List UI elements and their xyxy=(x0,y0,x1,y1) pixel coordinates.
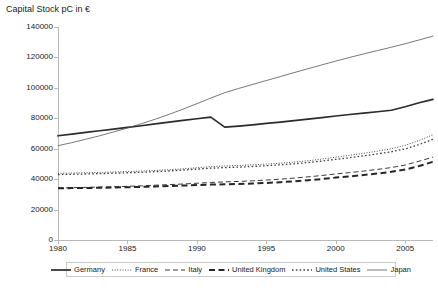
y-tick-mark xyxy=(54,27,58,28)
x-axis-line xyxy=(58,240,433,241)
cropped-caption xyxy=(4,281,204,288)
chart-container: Capital Stock pC in € 020000400006000080… xyxy=(0,0,438,288)
series-line xyxy=(58,157,433,188)
legend-swatch-icon xyxy=(112,266,132,274)
legend-label: Germany xyxy=(74,266,105,274)
legend-item[interactable]: Germany xyxy=(51,266,105,274)
y-tick-label: 0 xyxy=(49,236,53,244)
y-tick-label: 60000 xyxy=(31,145,53,153)
x-tick-label: 1995 xyxy=(257,244,275,254)
series-line xyxy=(58,139,433,174)
chart-legend: GermanyFranceItalyUnited KingdomUnited S… xyxy=(66,262,396,277)
legend-swatch-icon xyxy=(209,266,229,274)
legend-label: United States xyxy=(315,266,360,274)
y-tick-label: 140000 xyxy=(26,23,53,31)
y-tick-label: 120000 xyxy=(26,53,53,61)
series-line xyxy=(58,162,433,188)
y-tick-label: 80000 xyxy=(31,114,53,122)
legend-item[interactable]: United States xyxy=(292,266,360,274)
legend-swatch-icon xyxy=(367,266,387,274)
legend-swatch-icon xyxy=(165,266,185,274)
legend-item[interactable]: Italy xyxy=(165,266,202,274)
x-tick-label: 1985 xyxy=(119,244,137,254)
x-tick-mark xyxy=(127,240,128,244)
legend-swatch-icon xyxy=(292,266,312,274)
y-tick-mark xyxy=(54,118,58,119)
legend-label: Japan xyxy=(390,266,410,274)
legend-label: France xyxy=(135,266,158,274)
x-axis-labels: 198019851990199520002005 xyxy=(0,244,438,258)
series-line xyxy=(58,99,433,135)
legend-item[interactable]: France xyxy=(112,266,158,274)
x-tick-mark xyxy=(197,240,198,244)
x-tick-mark xyxy=(405,240,406,244)
y-tick-mark xyxy=(54,210,58,211)
y-tick-mark xyxy=(54,88,58,89)
plot-area xyxy=(58,27,433,240)
legend-label: Italy xyxy=(188,266,202,274)
y-tick-mark xyxy=(54,57,58,58)
x-tick-label: 1990 xyxy=(188,244,206,254)
x-tick-mark xyxy=(58,240,59,244)
x-tick-label: 2000 xyxy=(327,244,345,254)
y-tick-label: 20000 xyxy=(31,206,53,214)
y-tick-label: 40000 xyxy=(31,175,53,183)
legend-swatch-icon xyxy=(51,266,71,274)
y-tick-mark xyxy=(54,179,58,180)
y-tick-mark xyxy=(54,149,58,150)
legend-label: United Kingdom xyxy=(232,266,285,274)
y-tick-label: 100000 xyxy=(26,84,53,92)
legend-item[interactable]: United Kingdom xyxy=(209,266,285,274)
x-tick-label: 1980 xyxy=(49,244,67,254)
series-lines xyxy=(58,27,433,240)
x-tick-label: 2005 xyxy=(396,244,414,254)
x-tick-mark xyxy=(266,240,267,244)
x-tick-mark xyxy=(336,240,337,244)
legend-item[interactable]: Japan xyxy=(367,266,410,274)
